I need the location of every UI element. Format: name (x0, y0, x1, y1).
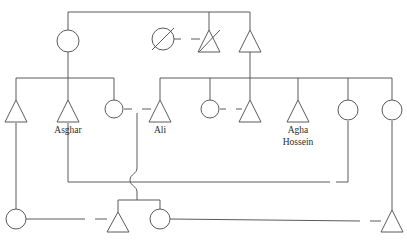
person-triangle-gen2-male-left[interactable] (5, 100, 27, 122)
person-circle-gen3-female-mid[interactable] (150, 209, 170, 229)
person-circle-gen2-female-ali-spouse[interactable] (105, 100, 123, 118)
person-triangle-ali[interactable] (149, 100, 171, 122)
person-circle-gen3-female-left[interactable] (6, 209, 26, 229)
person-triangle-gen2-male-mid[interactable] (239, 100, 261, 122)
label-ali: Ali (154, 125, 167, 135)
person-labels: Asghar Ali Agha Hossein (54, 125, 313, 147)
person-triangle-gen3-male-right[interactable] (381, 210, 403, 232)
label-asghar: Asghar (54, 125, 82, 135)
person-circle-gen2-female-r2[interactable] (382, 100, 402, 120)
person-triangle-asghar[interactable] (57, 100, 79, 122)
pedigree-canvas: Asghar Ali Agha Hossein (0, 0, 407, 243)
person-circle-gen2-female-mid[interactable] (201, 100, 219, 118)
line-gen3-right-union-bar (170, 219, 360, 221)
line-hop-arc (130, 168, 137, 192)
pedigree-diagram: Asghar Ali Agha Hossein (0, 0, 407, 243)
person-triangle-gen1-male[interactable] (239, 30, 261, 52)
person-circle-gen1-female[interactable] (57, 30, 79, 52)
person-triangle-gen3-male-mid[interactable] (107, 212, 129, 232)
label-agha: Agha (288, 125, 309, 135)
person-triangle-agha-hossein[interactable] (287, 100, 309, 122)
label-hossein: Hossein (283, 137, 314, 147)
person-circle-gen2-female-r1[interactable] (338, 100, 358, 120)
